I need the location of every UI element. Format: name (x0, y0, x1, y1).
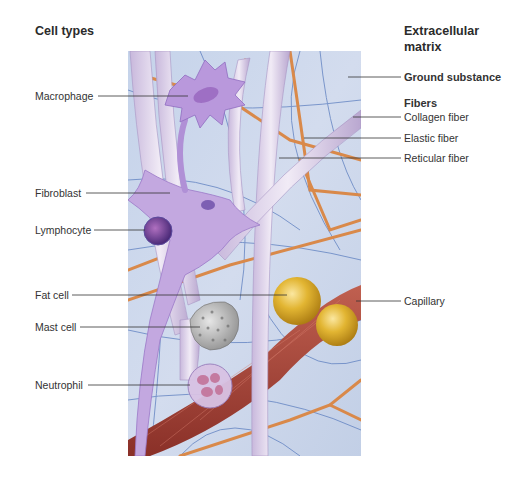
extracellular-matrix-heading-line2: matrix (404, 40, 442, 55)
label-ground-substance: Ground substance (404, 71, 501, 83)
label-collagen-fiber: Collagen fiber (404, 111, 469, 123)
label-fibroblast: Fibroblast (35, 187, 81, 199)
label-capillary: Capillary (404, 295, 445, 307)
label-fat-cell: Fat cell (35, 289, 69, 301)
label-mast-cell: Mast cell (35, 321, 76, 333)
cell-types-heading: Cell types (35, 24, 94, 39)
label-neutrophil: Neutrophil (35, 379, 83, 391)
label-macrophage: Macrophage (35, 90, 93, 102)
fibers-heading: Fibers (404, 97, 437, 109)
label-lymphocyte: Lymphocyte (35, 224, 91, 236)
extracellular-matrix-heading-line1: Extracellular (404, 24, 479, 39)
label-reticular-fiber: Reticular fiber (404, 152, 469, 164)
label-elastic-fiber: Elastic fiber (404, 132, 458, 144)
